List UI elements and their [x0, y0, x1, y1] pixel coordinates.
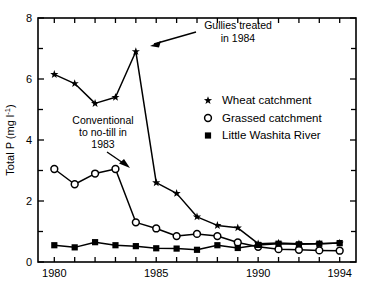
data-point — [337, 240, 343, 246]
no-till-annotation-line1: Conventional — [72, 114, 133, 126]
data-point — [112, 242, 118, 248]
data-point — [153, 245, 159, 251]
y-tick-label: 0 — [26, 256, 32, 268]
data-point — [132, 219, 139, 226]
chart-legend: Wheat catchmentGrassed catchmentLittle W… — [204, 94, 323, 141]
data-point — [71, 181, 78, 188]
data-point — [296, 246, 303, 253]
data-point — [92, 170, 99, 177]
data-point — [214, 242, 220, 248]
data-point — [214, 233, 221, 240]
data-point — [275, 241, 281, 247]
y-tick-label: 2 — [26, 195, 32, 207]
x-tick-label: 1994 — [327, 267, 351, 279]
data-point — [174, 245, 180, 251]
data-point — [275, 246, 282, 253]
legend-label-wheat-catchment: Wheat catchment — [222, 94, 312, 106]
data-point — [296, 241, 302, 247]
data-point — [112, 166, 119, 173]
data-point — [194, 231, 201, 238]
x-tick-label: 1980 — [42, 267, 66, 279]
data-point — [336, 247, 343, 254]
legend-marker-open-circle — [205, 115, 212, 122]
data-point — [255, 242, 261, 248]
y-tick-label: 8 — [26, 12, 32, 24]
data-point — [153, 225, 160, 232]
gullies-annotation-line2: in 1984 — [221, 32, 256, 44]
legend-label-grassed-catchment: Grassed catchment — [222, 112, 323, 124]
data-point — [72, 244, 78, 250]
y-axis-title: Total P (mg l-1) — [3, 104, 16, 175]
data-point — [316, 241, 322, 247]
x-tick-label: 1985 — [144, 267, 168, 279]
data-point — [234, 239, 241, 246]
legend-marker-filled-square — [205, 132, 211, 138]
data-point — [133, 243, 139, 249]
no-till-annotation-line3: 1983 — [91, 138, 115, 150]
x-tick-label: 1990 — [246, 267, 270, 279]
data-point — [51, 166, 58, 173]
total-phosphorus-line-chart: 1980198519901994 02468 Total P (mg l-1) … — [0, 0, 378, 290]
data-point — [173, 233, 180, 240]
y-tick-label: 4 — [26, 134, 32, 146]
data-point — [316, 247, 323, 254]
no-till-annotation-line2: to no-till in — [79, 126, 127, 138]
data-point — [51, 242, 57, 248]
data-point — [92, 239, 98, 245]
gullies-annotation-line1: Gullies treated — [204, 19, 272, 31]
chart-figure: 1980198519901994 02468 Total P (mg l-1) … — [0, 0, 378, 290]
data-point — [194, 247, 200, 253]
y-tick-label: 6 — [26, 73, 32, 85]
data-point — [235, 245, 241, 251]
legend-label-little-washita-river: Little Washita River — [222, 129, 321, 141]
